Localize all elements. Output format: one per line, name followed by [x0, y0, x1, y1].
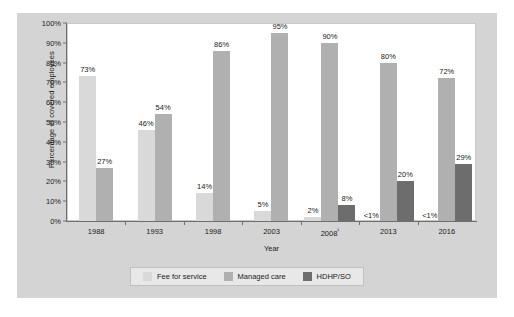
bar-group-bars: 14%86%	[184, 23, 242, 221]
x-tick-label: 2016	[438, 227, 455, 236]
bar-value-label: 20%	[398, 170, 413, 179]
bar-slot: 72%	[438, 23, 455, 221]
y-tick-label: 50%	[46, 118, 61, 127]
bar-value-label: 14%	[197, 182, 212, 191]
bar-value-label: <1%	[364, 211, 379, 220]
chart-legend: Fee for serviceManaged careHDHP/SO	[130, 267, 364, 286]
y-tick-label: 20%	[46, 177, 61, 186]
x-tick-label: 2013	[380, 227, 397, 236]
bar-slot: 2%	[304, 23, 321, 221]
x-tick-mark	[242, 221, 243, 225]
bar-group-bars: 2%90%8%	[301, 23, 359, 221]
legend-swatch-icon	[224, 272, 233, 281]
bar-group-bars: 5%95%	[242, 23, 300, 221]
bar-slot: 80%	[380, 23, 397, 221]
bar-slot: 86%	[213, 23, 230, 221]
x-tick-label-footnote: ¹	[337, 227, 339, 233]
bar-slot: <1%	[363, 23, 380, 221]
bar-slot: 73%	[79, 23, 96, 221]
bar-value-label: 27%	[97, 157, 112, 166]
bar[interactable]: 80%	[380, 63, 397, 221]
bar-group-bars: 73%27%	[67, 23, 125, 221]
bar-slot: 29%	[455, 23, 472, 221]
bar-slot: <1%	[421, 23, 438, 221]
bar[interactable]: 14%	[196, 193, 213, 221]
bar[interactable]: 5%	[254, 211, 271, 221]
bar-slot: 95%	[271, 23, 288, 221]
bar-group: 2%90%8%	[301, 23, 359, 221]
bar-slot: 27%	[96, 23, 113, 221]
y-tick-label: 100%	[42, 19, 61, 28]
x-tick-mark	[125, 221, 126, 225]
x-tick-label: 2003	[263, 227, 280, 236]
bar-value-label: 29%	[456, 153, 471, 162]
legend-swatch-icon	[303, 272, 312, 281]
bar[interactable]: 95%	[271, 33, 288, 221]
legend-label: HDHP/SO	[317, 272, 351, 281]
x-tick-mark	[301, 221, 302, 225]
bar-slot: 90%	[321, 23, 338, 221]
bar-group: 5%95%	[242, 23, 300, 221]
y-tick-label: 30%	[46, 157, 61, 166]
plot-wrapper: 0%10%20%30%40%50%60%70%80%90%100% 73%27%…	[67, 23, 476, 221]
bar-slot: 46%	[138, 23, 155, 221]
x-tick-label: 1988	[88, 227, 105, 236]
y-tick-label: 10%	[46, 197, 61, 206]
bar-value-label: 95%	[272, 22, 287, 31]
x-tick-label: 1998	[205, 227, 222, 236]
bar[interactable]: 20%	[397, 181, 414, 221]
x-axis-line	[66, 221, 477, 222]
bar[interactable]: 46%	[138, 130, 155, 221]
y-tick-label: 70%	[46, 78, 61, 87]
bar-value-label: 73%	[80, 65, 95, 74]
legend-item[interactable]: Managed care	[224, 272, 286, 281]
legend-item[interactable]: Fee for service	[143, 272, 207, 281]
bar-group-bars: <1%72%29%	[418, 23, 476, 221]
bar[interactable]: 54%	[155, 114, 172, 221]
bar-group: 73%27%	[67, 23, 125, 221]
bar-group: <1%80%20%	[359, 23, 417, 221]
y-tick-label: 90%	[46, 38, 61, 47]
bar[interactable]: 2%	[304, 217, 321, 221]
bar[interactable]: 73%	[79, 76, 96, 221]
bar-value-label: 72%	[439, 67, 454, 76]
legend-label: Fee for service	[157, 272, 207, 281]
x-tick-label: 2008¹	[321, 227, 340, 238]
bar-group: <1%72%29%	[418, 23, 476, 221]
y-tick-label: 80%	[46, 58, 61, 67]
y-tick-label: 0%	[50, 217, 61, 226]
bar[interactable]: 90%	[321, 43, 338, 221]
bar[interactable]: 72%	[438, 78, 455, 221]
legend-swatch-icon	[143, 272, 152, 281]
bar-value-label: 54%	[156, 103, 171, 112]
bar-group: 46%54%	[125, 23, 183, 221]
x-tick-mark	[184, 221, 185, 225]
bar[interactable]: 29%	[455, 164, 472, 221]
bar-group-bars: 46%54%	[125, 23, 183, 221]
bar[interactable]: 8%	[338, 205, 355, 221]
bar-slot: 5%	[254, 23, 271, 221]
legend-label: Managed care	[238, 272, 286, 281]
chart-figure: Percentage of covered employees 0%10%20%…	[17, 13, 497, 298]
bar-value-label: 2%	[307, 206, 318, 215]
bar-slot: 54%	[155, 23, 172, 221]
bar-slot: 20%	[397, 23, 414, 221]
bar-value-label: <1%	[422, 211, 437, 220]
bar-slot: 8%	[338, 23, 355, 221]
bar-group-bars: <1%80%20%	[359, 23, 417, 221]
y-tick-label: 40%	[46, 137, 61, 146]
bar-value-label: 86%	[214, 40, 229, 49]
bar[interactable]: 86%	[213, 51, 230, 221]
x-axis-title: Year	[67, 244, 476, 253]
bar-value-label: 46%	[139, 119, 154, 128]
legend-item[interactable]: HDHP/SO	[303, 272, 351, 281]
bar-slot: 14%	[196, 23, 213, 221]
bar-value-label: 8%	[341, 194, 352, 203]
bar-group: 14%86%	[184, 23, 242, 221]
y-tick-label: 60%	[46, 98, 61, 107]
x-tick-mark	[359, 221, 360, 225]
bar-value-label: 90%	[322, 32, 337, 41]
bar[interactable]: 27%	[96, 168, 113, 221]
bar-value-label: 5%	[258, 200, 269, 209]
x-tick-label: 1993	[146, 227, 163, 236]
